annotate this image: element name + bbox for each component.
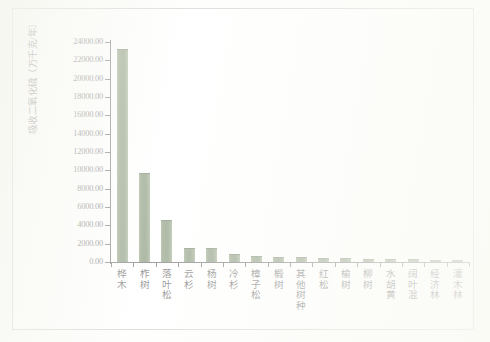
x-axis-label: 樟子松: [249, 269, 263, 301]
bar[interactable]: [139, 173, 150, 262]
bar[interactable]: [161, 220, 172, 262]
x-axis-label: 灌木林: [451, 269, 465, 301]
x-axis-tick: [357, 262, 358, 267]
chart-frame: 吸收二氧化硫（万千克/年） 24000.0022000.0020000.0018…: [12, 8, 474, 330]
bar-slot: [223, 42, 245, 262]
bar-slot: [133, 42, 155, 262]
bar[interactable]: [340, 258, 351, 262]
bar-slot: [402, 42, 424, 262]
x-axis-label: 杨树: [205, 269, 219, 290]
y-axis-tick-label-group: 24000.0022000.0020000.0018000.0016000.00…: [47, 9, 103, 309]
x-axis-tick: [469, 262, 470, 267]
x-axis-label: 柞树: [138, 269, 152, 290]
bar[interactable]: [385, 259, 396, 262]
x-axis-label: 榆树: [339, 269, 353, 290]
x-axis-tick: [335, 262, 336, 267]
bar-slot: [312, 42, 334, 262]
x-axis-tick: [312, 262, 313, 267]
bar[interactable]: [318, 258, 329, 262]
x-axis-tick: [424, 262, 425, 267]
y-axis-title: 吸收二氧化硫（万千克/年）: [25, 0, 39, 171]
bar-slot: [424, 42, 446, 262]
y-axis-tick-label: 0.00: [49, 257, 103, 266]
bar-slot: [178, 42, 200, 262]
y-axis-tick-label: 4000.00: [49, 220, 103, 229]
bar-slot: [268, 42, 290, 262]
bar[interactable]: [229, 254, 240, 262]
bar-slot: [447, 42, 469, 262]
bar[interactable]: [273, 257, 284, 262]
y-axis-tick-label: 6000.00: [49, 202, 103, 211]
x-axis-tick: [447, 262, 448, 267]
bar-slot: [335, 42, 357, 262]
x-axis-tick: [223, 262, 224, 267]
y-axis-tick-label: 22000.00: [49, 55, 103, 64]
bar[interactable]: [184, 248, 195, 262]
x-axis-label: 其他树种: [294, 269, 308, 311]
x-axis-tick: [133, 262, 134, 267]
x-axis-label: 水胡黄: [384, 269, 398, 301]
x-axis-label: 红松: [317, 269, 331, 290]
x-axis-label: 阔叶混: [406, 269, 420, 301]
x-axis-label: 椴树: [272, 269, 286, 290]
bar-slot: [245, 42, 267, 262]
bar[interactable]: [363, 259, 374, 262]
bar[interactable]: [206, 248, 217, 262]
x-axis-label: 经济林: [428, 269, 442, 301]
x-axis-label: 柳树: [361, 269, 375, 290]
x-axis-label: 桦木: [115, 269, 129, 290]
plot-area: [111, 42, 469, 262]
y-axis-tick-label: 12000.00: [49, 147, 103, 156]
x-axis-tick: [380, 262, 381, 267]
bar[interactable]: [251, 256, 262, 262]
x-axis-tick: [111, 262, 112, 267]
bar-slot: [156, 42, 178, 262]
bar-slot: [357, 42, 379, 262]
bar-slot: [290, 42, 312, 262]
y-axis-tick-label: 10000.00: [49, 165, 103, 174]
y-axis-tick-label: 14000.00: [49, 129, 103, 138]
x-axis-tick: [290, 262, 291, 267]
bar-slot: [111, 42, 133, 262]
bar-slot: [380, 42, 402, 262]
y-axis-tick-label: 16000.00: [49, 110, 103, 119]
bar-slot: [201, 42, 223, 262]
x-axis-label: 云杉: [182, 269, 196, 290]
x-axis-tick: [156, 262, 157, 267]
x-axis-tick: [201, 262, 202, 267]
bar[interactable]: [430, 260, 441, 262]
x-axis-tick: [178, 262, 179, 267]
y-axis-tick-label: 18000.00: [49, 92, 103, 101]
bar[interactable]: [408, 259, 419, 262]
y-axis-tick-label: 8000.00: [49, 184, 103, 193]
bar[interactable]: [117, 49, 128, 262]
x-axis-tick: [402, 262, 403, 267]
y-axis-tick-label: 24000.00: [49, 37, 103, 46]
bar[interactable]: [296, 257, 307, 262]
chart-page: 吸收二氧化硫（万千克/年） 24000.0022000.0020000.0018…: [0, 0, 490, 342]
x-axis-label: 冷杉: [227, 269, 241, 290]
y-axis-tick-label: 20000.00: [49, 74, 103, 83]
x-axis-label: 落叶松: [160, 269, 174, 301]
x-axis-tick: [245, 262, 246, 267]
bar[interactable]: [452, 260, 463, 262]
y-axis-tick-label: 2000.00: [49, 239, 103, 248]
x-axis-tick: [268, 262, 269, 267]
